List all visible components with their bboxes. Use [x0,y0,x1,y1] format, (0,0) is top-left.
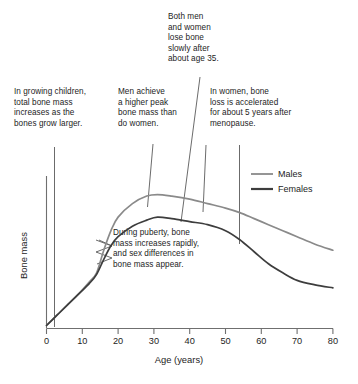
leader-line-men [148,144,154,207]
data-series-group [47,195,333,326]
series-line-males [47,195,333,326]
legend-swatches [251,174,273,189]
x-tick-label: 10 [69,336,95,346]
x-tick-label: 40 [177,336,203,346]
x-axis-ticks [47,329,333,335]
y-axis-title: Bone mass [18,221,29,291]
x-tick-label: 30 [141,336,167,346]
legend-label-males: Males [278,169,302,180]
x-tick-label: 50 [213,336,239,346]
cropped-caption-remnant [6,374,186,382]
figure-root: Both men and women lose bone slowly afte… [0,0,358,384]
x-tick-label: 20 [105,336,131,346]
x-tick-label: 70 [284,336,310,346]
x-tick-label: 60 [248,336,274,346]
x-tick-label: 80 [320,336,346,346]
x-axis-title: Age (years) [0,354,358,365]
x-tick-label: 0 [34,336,60,346]
legend-label-females: Females [278,184,313,195]
